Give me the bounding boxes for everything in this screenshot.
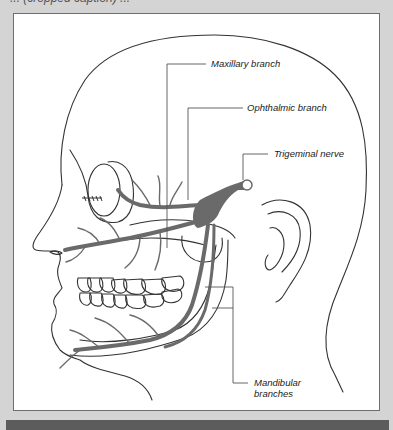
label-maxillary-branch: Maxillary branch [211, 58, 280, 69]
bottom-bar [6, 420, 389, 430]
trigeminal-leader [243, 154, 268, 180]
mandibular-leader-upper [205, 287, 248, 383]
orbit [88, 164, 120, 216]
label-trigeminal-nerve: Trigeminal nerve [274, 148, 344, 159]
upper-teeth [77, 276, 183, 294]
label-mandibular-line2: branches [254, 388, 301, 399]
label-ophthalmic-branch: Ophthalmic branch [247, 102, 327, 113]
label-mandibular-branches: Mandibular branches [254, 377, 301, 399]
eyelashes [82, 196, 102, 201]
trigeminal-nerve-network [60, 176, 252, 368]
label-mandibular-line1: Mandibular [254, 377, 301, 388]
ear [262, 200, 311, 302]
head-illustration [0, 0, 393, 430]
nostril [50, 251, 62, 254]
